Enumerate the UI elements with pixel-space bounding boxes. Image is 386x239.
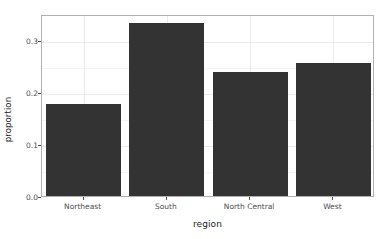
- x-axis-ticks: NortheastSouthNorth CentralWest: [41, 197, 374, 219]
- x-tick-mark: [249, 197, 250, 200]
- y-tick-label: 0.2: [10, 89, 38, 98]
- plot-panel: [41, 15, 374, 197]
- y-axis-ticks: 0.00.10.20.3: [8, 0, 38, 239]
- bar-northeast: [46, 104, 121, 196]
- bar-west: [296, 63, 371, 196]
- bar-south: [129, 23, 204, 196]
- x-axis-title: region: [41, 219, 374, 229]
- bar-chart: proportion 0.00.10.20.3 NortheastSouthNo…: [0, 0, 386, 239]
- y-tick-label: 0.3: [10, 37, 38, 46]
- bar-north-central: [213, 72, 288, 196]
- x-tick-mark: [166, 197, 167, 200]
- x-tick-mark: [83, 197, 84, 200]
- y-tick-label: 0.1: [10, 141, 38, 150]
- gridline-major-horizontal: [42, 42, 373, 43]
- x-tick-label-northeast: Northeast: [64, 202, 101, 211]
- x-tick-mark: [332, 197, 333, 200]
- x-tick-label-west: West: [323, 202, 341, 211]
- y-tick-label: 0.0: [10, 193, 38, 202]
- x-tick-label-north-central: North Central: [224, 202, 275, 211]
- x-tick-label-south: South: [155, 202, 177, 211]
